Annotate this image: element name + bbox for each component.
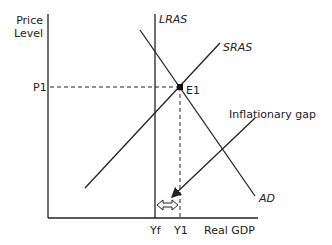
equilibrium-point <box>177 84 183 90</box>
x-axis-label: Real GDP <box>204 224 255 237</box>
p1-label: P1 <box>33 81 47 94</box>
ad-label: AD <box>258 192 275 205</box>
ad-as-diagram: Price Level P1 LRAS SRAS AD E1 Inflation… <box>0 0 332 245</box>
y1-label: Y1 <box>173 224 188 237</box>
gap-double-arrow-icon <box>157 200 178 210</box>
equilibrium-label: E1 <box>186 84 200 97</box>
y-axis-label-line1: Price <box>16 14 43 27</box>
yf-label: Yf <box>149 224 162 237</box>
inflationary-gap-label: Inflationary gap <box>229 108 316 121</box>
lras-label: LRAS <box>159 13 187 26</box>
gap-pointer-arrow <box>172 118 255 197</box>
y-axis-label-line2: Level <box>14 27 43 40</box>
sras-label: SRAS <box>223 41 252 54</box>
